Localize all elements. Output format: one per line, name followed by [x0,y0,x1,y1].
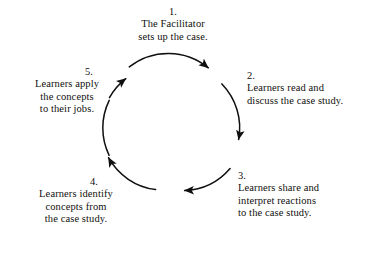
cycle-step-4: 4. Learners identify concepts from the c… [14,176,138,226]
step-2-number: 2. [247,70,371,82]
step-5-line-2: the concepts [8,91,126,103]
step-3-line-3: to the case study. [238,207,370,219]
step-4-line-3: the case study. [14,213,138,225]
step-3-text: Learners share and interpret reactions t… [238,182,370,219]
step-5-text: Learners apply the concepts to their job… [8,78,126,115]
cycle-step-1: 1. The Facilitator sets up the case. [118,6,228,43]
cycle-step-2: 2. Learners read and discuss the case st… [247,70,371,107]
step-3-line-2: interpret reactions [238,195,370,207]
arrow-2-to-3 [222,84,240,140]
step-2-line-1: Learners read and [247,82,371,94]
step-3-number: 3. [238,170,370,182]
step-4-line-1: Learners identify [14,188,138,200]
step-1-line-2: sets up the case. [118,31,228,43]
cycle-step-3: 3. Learners share and interpret reaction… [238,170,370,220]
step-4-line-2: concepts from [14,201,138,213]
step-4-text: Learners identify concepts from the case… [14,188,138,225]
step-5-line-3: to their jobs. [8,103,126,115]
step-1-number: 1. [118,6,228,18]
cycle-diagram-canvas: 1. The Facilitator sets up the case. 2. … [0,0,372,255]
step-5-line-1: Learners apply [8,78,126,90]
step-1-line-1: The Facilitator [118,18,228,30]
arrow-1-to-2 [129,53,208,67]
cycle-step-5: 5. Learners apply the concepts to their … [8,66,126,116]
step-3-line-1: Learners share and [238,182,370,194]
step-2-text: Learners read and discuss the case study… [247,82,371,107]
step-2-line-2: discuss the case study. [247,95,371,107]
arrow-3-to-4 [185,169,231,191]
step-4-number: 4. [14,176,138,188]
step-1-text: The Facilitator sets up the case. [118,18,228,43]
step-5-number: 5. [8,66,126,78]
